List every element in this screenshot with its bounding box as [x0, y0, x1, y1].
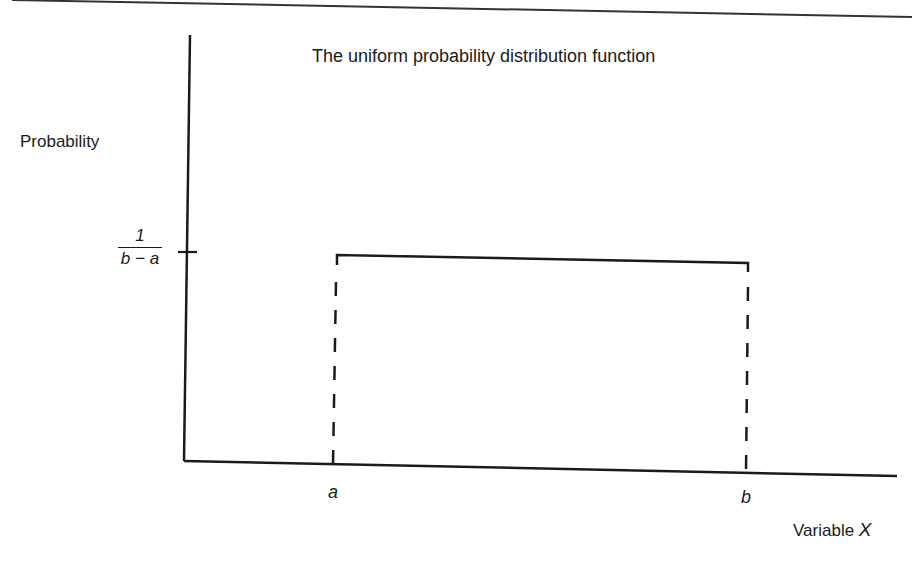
top-rule [12, 0, 912, 17]
y-tick-numerator: 1 [118, 226, 162, 248]
x-tick-b: b [741, 487, 751, 508]
y-axis [184, 35, 190, 461]
dashed-edge-b [746, 287, 748, 472]
x-tick-a: a [328, 482, 338, 503]
x-axis-label: Variable X [793, 519, 872, 541]
chart-title: The uniform probability distribution fun… [312, 46, 655, 67]
y-tick-denominator: b − a [116, 248, 164, 269]
x-axis-label-text: Variable [793, 521, 854, 540]
pdf-top-line [337, 255, 748, 272]
chart-canvas [0, 0, 924, 570]
x-axis [184, 461, 897, 476]
dashed-edge-a [333, 282, 336, 464]
y-tick-label: 1 b − a [116, 226, 164, 269]
y-axis-label: Probability [20, 132, 99, 152]
x-axis-label-var: X [859, 519, 872, 540]
